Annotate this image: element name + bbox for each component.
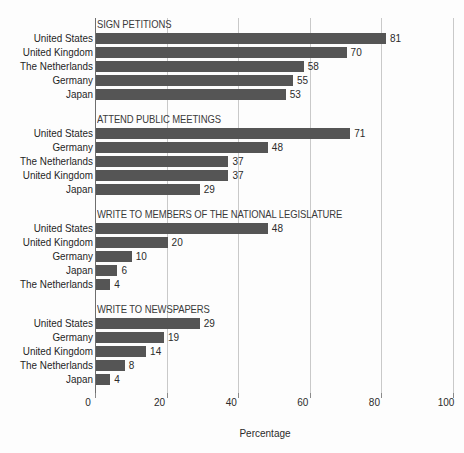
bar-value-label: 29 <box>204 183 215 196</box>
bar <box>96 170 228 181</box>
x-tick-label: 60 <box>297 397 308 409</box>
bar-value-label: 29 <box>204 317 215 330</box>
bar-row: 19 <box>95 331 453 345</box>
bar <box>96 318 200 329</box>
bar <box>96 279 110 290</box>
bar-row: 70 <box>95 46 453 60</box>
group-title: SIGN PETITIONS <box>97 18 171 30</box>
x-tick-0 <box>95 393 96 398</box>
group-title: WRITE TO NEWSPAPERS <box>97 303 210 315</box>
x-tick-60 <box>310 393 311 398</box>
bar <box>96 75 293 86</box>
category-label: United States <box>8 222 93 235</box>
category-label: Germany <box>8 141 93 154</box>
category-label: Japan <box>8 264 93 277</box>
bar-chart: United StatesUnited KingdomThe Netherlan… <box>0 0 464 453</box>
bar <box>96 89 286 100</box>
gridline-100 <box>453 18 454 393</box>
x-tick-label: 100 <box>438 397 455 409</box>
bar-row: 20 <box>95 236 453 250</box>
bar <box>96 251 132 262</box>
category-label: Germany <box>8 74 93 87</box>
category-label: United Kingdom <box>8 345 93 358</box>
bar <box>96 237 168 248</box>
bar-value-label: 8 <box>129 359 135 372</box>
category-label: Japan <box>8 373 93 386</box>
category-label: Germany <box>8 331 93 344</box>
bar <box>96 184 200 195</box>
x-tick-80 <box>381 393 382 398</box>
x-tick-40 <box>238 393 239 398</box>
bar-value-label: 6 <box>121 264 127 277</box>
bar-row: 37 <box>95 155 453 169</box>
category-label: The Netherlands <box>8 155 93 168</box>
bar-rows: 7148373729 <box>95 127 453 197</box>
x-tick-label: 20 <box>154 397 165 409</box>
bar <box>96 360 125 371</box>
category-label: The Netherlands <box>8 359 93 372</box>
x-axis-title: Percentage <box>0 428 464 439</box>
bar-value-label: 48 <box>272 141 283 154</box>
category-label: Japan <box>8 183 93 196</box>
bar <box>96 33 386 44</box>
x-tick-20 <box>167 393 168 398</box>
bar-rows: 48201064 <box>95 222 453 292</box>
category-label: Germany <box>8 250 93 263</box>
bar <box>96 128 350 139</box>
bar-value-label: 19 <box>168 331 179 344</box>
bar-row: 14 <box>95 345 453 359</box>
x-axis-title-text: Percentage <box>239 428 290 439</box>
category-labels: United StatesUnited KingdomThe Netherlan… <box>0 18 93 393</box>
bar-value-label: 71 <box>354 127 365 140</box>
bar <box>96 61 304 72</box>
bar <box>96 223 268 234</box>
bar-value-label: 10 <box>136 250 147 263</box>
category-label: United Kingdom <box>8 169 93 182</box>
category-label: United Kingdom <box>8 46 93 59</box>
bar <box>96 142 268 153</box>
category-label: Japan <box>8 88 93 101</box>
bar-row: 71 <box>95 127 453 141</box>
bar-value-label: 14 <box>150 345 161 358</box>
group-title: WRITE TO MEMBERS OF THE NATIONAL LEGISLA… <box>97 208 342 220</box>
bar-row: 58 <box>95 60 453 74</box>
x-tick-label: 80 <box>369 397 380 409</box>
bar-value-label: 81 <box>390 32 401 45</box>
bar-row: 6 <box>95 264 453 278</box>
category-label: United States <box>8 127 93 140</box>
bar <box>96 265 117 276</box>
bar-value-label: 37 <box>232 169 243 182</box>
bar-rows: 29191484 <box>95 317 453 387</box>
bar-row: 37 <box>95 169 453 183</box>
x-tick-label: 0 <box>85 397 91 409</box>
x-axis: 020406080100 <box>95 393 453 415</box>
bar-value-label: 48 <box>272 222 283 235</box>
bar-value-label: 4 <box>114 278 120 291</box>
bar-row: 4 <box>95 373 453 387</box>
group-title: ATTEND PUBLIC MEETINGS <box>97 113 221 125</box>
bar-value-label: 53 <box>290 88 301 101</box>
bar-row: 4 <box>95 278 453 292</box>
bar-row: 48 <box>95 141 453 155</box>
bar-rows: 8170585553 <box>95 32 453 102</box>
bar-row: 55 <box>95 74 453 88</box>
bar-value-label: 20 <box>172 236 183 249</box>
category-label: United States <box>8 32 93 45</box>
category-label: United States <box>8 317 93 330</box>
bar-row: 48 <box>95 222 453 236</box>
bar-row: 53 <box>95 88 453 102</box>
bar <box>96 332 164 343</box>
bar <box>96 47 347 58</box>
bar-row: 10 <box>95 250 453 264</box>
bar-row: 29 <box>95 317 453 331</box>
bar-value-label: 4 <box>114 373 120 386</box>
x-tick-label: 40 <box>226 397 237 409</box>
bar-value-label: 58 <box>308 60 319 73</box>
plot-area: SIGN PETITIONS8170585553ATTEND PUBLIC ME… <box>95 18 453 393</box>
bar <box>96 156 228 167</box>
category-label: The Netherlands <box>8 278 93 291</box>
bar-value-label: 70 <box>351 46 362 59</box>
bar-row: 81 <box>95 32 453 46</box>
bar <box>96 374 110 385</box>
bar-value-label: 37 <box>232 155 243 168</box>
